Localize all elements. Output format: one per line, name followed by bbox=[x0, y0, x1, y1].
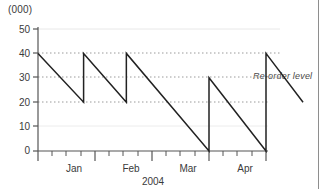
inventory-sawtooth-chart: (000) 50 40 30 20 10 0 Jan Feb Mar Apr 2… bbox=[0, 0, 323, 189]
page-right-border bbox=[318, 0, 319, 189]
plot-area bbox=[0, 0, 323, 189]
